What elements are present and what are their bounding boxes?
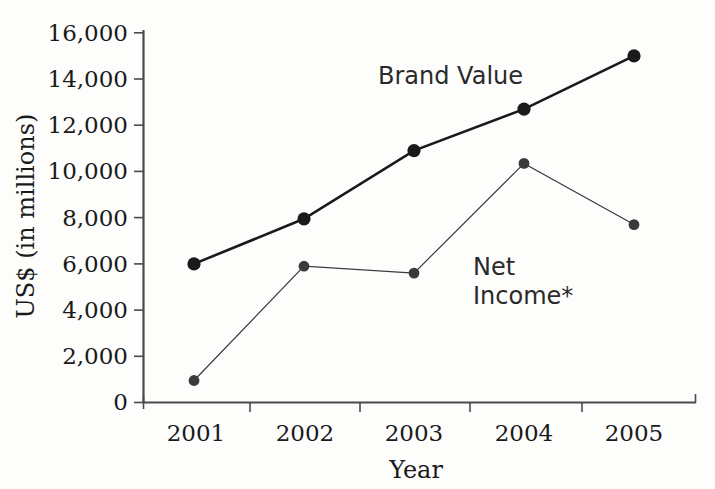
net-income-point-2002 — [299, 261, 310, 272]
y-tick-labels: 0 2,000 4,000 6,000 8,000 10,000 12,000 … — [48, 20, 128, 415]
x-tick-label-2003: 2003 — [385, 420, 444, 446]
net-income-series-label-line2: Income* — [473, 282, 573, 310]
net-income-point-2003 — [409, 268, 420, 279]
y-tick-label-6000: 6,000 — [62, 251, 128, 277]
x-axis-title: Year — [388, 456, 443, 484]
y-tick-label-4000: 4,000 — [62, 297, 128, 323]
y-tick-label-8000: 8,000 — [62, 205, 128, 231]
x-tick-label-2005: 2005 — [605, 420, 664, 446]
brand-value-point-2001 — [187, 257, 200, 270]
brand-value-point-2003 — [407, 144, 420, 157]
x-tick-label-2001: 2001 — [167, 420, 226, 446]
net-income-point-2001 — [189, 375, 200, 386]
series-net-income — [189, 158, 640, 386]
x-tick-marks — [144, 396, 583, 412]
net-income-series-label-line1: Net — [473, 253, 515, 281]
y-tick-label-14000: 14,000 — [48, 66, 128, 92]
net-income-point-2005 — [629, 219, 640, 230]
y-tick-label-12000: 12,000 — [48, 112, 128, 138]
line-chart: 0 2,000 4,000 6,000 8,000 10,000 12,000 … — [0, 0, 715, 489]
x-tick-labels: 2001 2002 2003 2004 2005 — [167, 420, 664, 446]
y-axis-title: US$ (in millions) — [12, 114, 40, 319]
x-tick-label-2004: 2004 — [495, 420, 554, 446]
net-income-point-2004 — [519, 158, 530, 169]
brand-value-point-2005 — [627, 49, 640, 62]
y-tick-marks — [134, 33, 144, 403]
y-tick-label-16000: 16,000 — [48, 20, 128, 46]
chart-canvas: 0 2,000 4,000 6,000 8,000 10,000 12,000 … — [0, 0, 715, 489]
x-tick-label-2002: 2002 — [276, 420, 335, 446]
brand-value-point-2002 — [297, 212, 310, 225]
y-tick-label-0: 0 — [113, 389, 128, 415]
y-tick-label-2000: 2,000 — [62, 343, 128, 369]
brand-value-point-2004 — [517, 103, 530, 116]
y-tick-label-10000: 10,000 — [48, 158, 128, 184]
brand-value-series-label: Brand Value — [378, 62, 523, 90]
